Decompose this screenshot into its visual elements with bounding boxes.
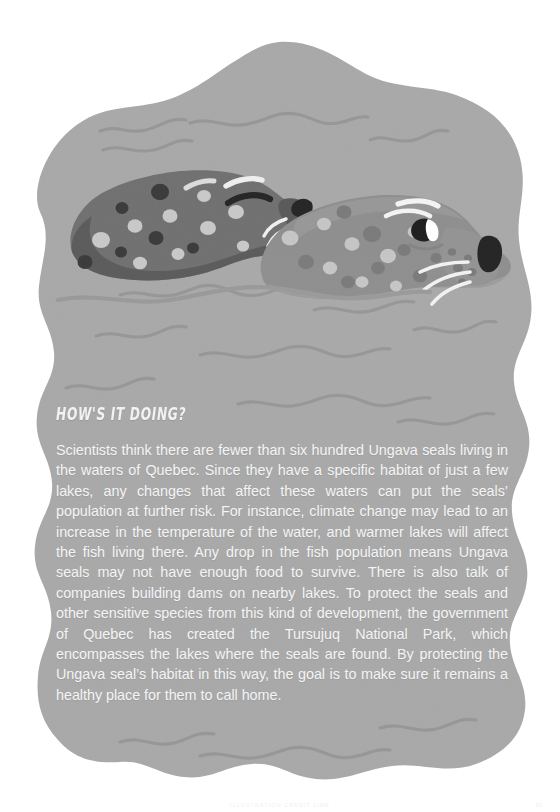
page-footer: ILLUSTRATION CREDIT LINE 31 bbox=[0, 802, 560, 808]
footer-credit: ILLUSTRATION CREDIT LINE bbox=[0, 802, 560, 808]
page-title: HOW'S IT DOING? bbox=[56, 404, 418, 424]
article-text-block: HOW'S IT DOING? Scientists think there a… bbox=[56, 404, 508, 705]
page-root: HOW'S IT DOING? Scientists think there a… bbox=[0, 0, 560, 812]
article-paragraph: Scientists think there are fewer than si… bbox=[56, 440, 508, 705]
article-body: Scientists think there are fewer than si… bbox=[56, 440, 508, 705]
